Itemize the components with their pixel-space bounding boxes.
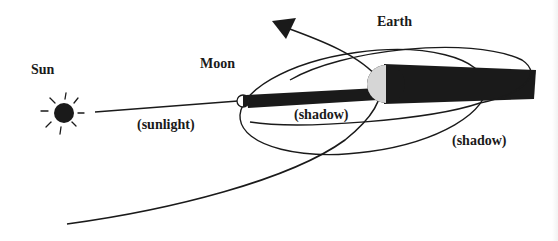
- earth-icon: [367, 65, 405, 103]
- sun-icon: [41, 93, 84, 134]
- moon-shadow-cone: [246, 88, 378, 108]
- sunlight-ray: [95, 101, 238, 112]
- moon-icon: [237, 95, 249, 107]
- orbit-direction-arrow-icon: [272, 18, 296, 39]
- moon-label: Moon: [200, 57, 235, 71]
- page-edge: [552, 0, 558, 241]
- sun-label: Sun: [31, 63, 54, 77]
- earth-shadow-label: (shadow): [452, 134, 506, 148]
- eclipse-diagram: Sun Moon Earth (sunlight) (shadow) (shad…: [0, 0, 558, 241]
- earth-shadow-band: [384, 64, 536, 104]
- earth-label: Earth: [377, 15, 412, 29]
- moon-shadow-label: (shadow): [294, 108, 348, 122]
- sunlight-label: (sunlight): [137, 118, 195, 132]
- diagram-canvas: [0, 0, 558, 241]
